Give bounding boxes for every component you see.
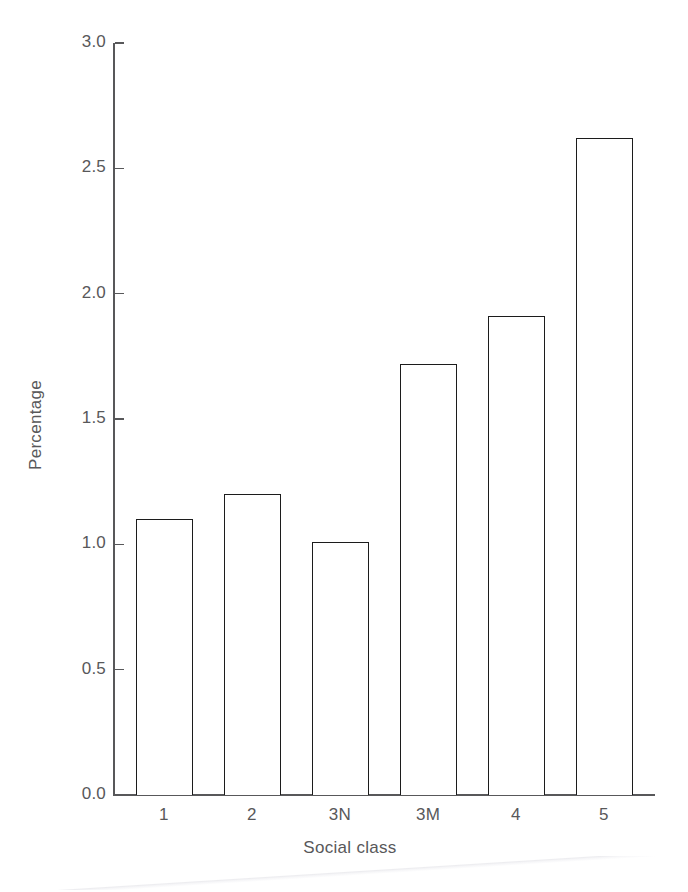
y-tick-label: 3.0 xyxy=(58,32,106,52)
bar xyxy=(576,138,633,795)
y-tick-label: 1.5 xyxy=(58,408,106,428)
y-tick-mark xyxy=(115,669,124,670)
x-tick-label: 5 xyxy=(564,805,644,825)
bar-chart-figure: 0.00.51.01.52.02.53.0 123N3M45 Percentag… xyxy=(0,0,688,892)
y-tick-mark xyxy=(115,794,124,795)
y-tick-mark xyxy=(115,418,124,419)
x-axis-title-wrap: Social class xyxy=(0,838,688,858)
bar xyxy=(488,316,545,795)
y-tick-label: 0.5 xyxy=(58,659,106,679)
y-axis-title: Percentage xyxy=(26,360,60,490)
y-tick-label: 2.5 xyxy=(58,157,106,177)
y-tick-label: 0.0 xyxy=(58,784,106,804)
bar xyxy=(312,542,369,795)
bar xyxy=(136,519,193,795)
y-tick-mark xyxy=(115,544,124,545)
bar xyxy=(400,364,457,795)
bar xyxy=(224,494,281,795)
x-tick-label: 3M xyxy=(388,805,468,825)
x-tick-label: 4 xyxy=(476,805,556,825)
x-axis-title: Social class xyxy=(303,838,396,858)
x-tick-label: 2 xyxy=(212,805,292,825)
y-tick-label: 1.0 xyxy=(58,533,106,553)
y-tick-label: 2.0 xyxy=(58,283,106,303)
y-tick-mark xyxy=(115,168,124,169)
y-tick-mark xyxy=(115,42,124,43)
page-edge-artifact xyxy=(0,856,688,890)
x-tick-label: 1 xyxy=(124,805,204,825)
y-tick-mark xyxy=(115,293,124,294)
x-tick-label: 3N xyxy=(300,805,380,825)
x-axis-line xyxy=(113,794,655,796)
